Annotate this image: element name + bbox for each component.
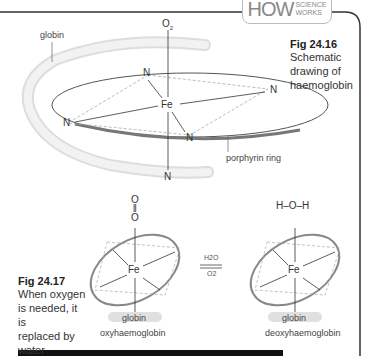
- atom-fe-oxy: Fe: [128, 264, 140, 275]
- atom-fe-deoxy: Fe: [288, 264, 300, 275]
- equilibrium-h2o: H2O: [204, 254, 218, 261]
- equilibrium-o2: O2: [207, 270, 216, 277]
- fig-24-17-caption: Fig 24.17 When oxygen is needed, it is r…: [18, 275, 88, 356]
- h2o-ligand: H–O–H: [276, 200, 309, 211]
- label-deoxyhaemoglobin: deoxyhaemoglobin: [265, 328, 341, 338]
- globin-label-oxy: globin: [122, 313, 146, 323]
- fig-24-17-title: Fig 24.17: [18, 275, 88, 287]
- label-oxyhaemoglobin: oxyhaemoglobin: [100, 328, 166, 338]
- globin-label-deoxy: globin: [282, 313, 306, 323]
- o2-ligand: O‖O: [131, 195, 139, 222]
